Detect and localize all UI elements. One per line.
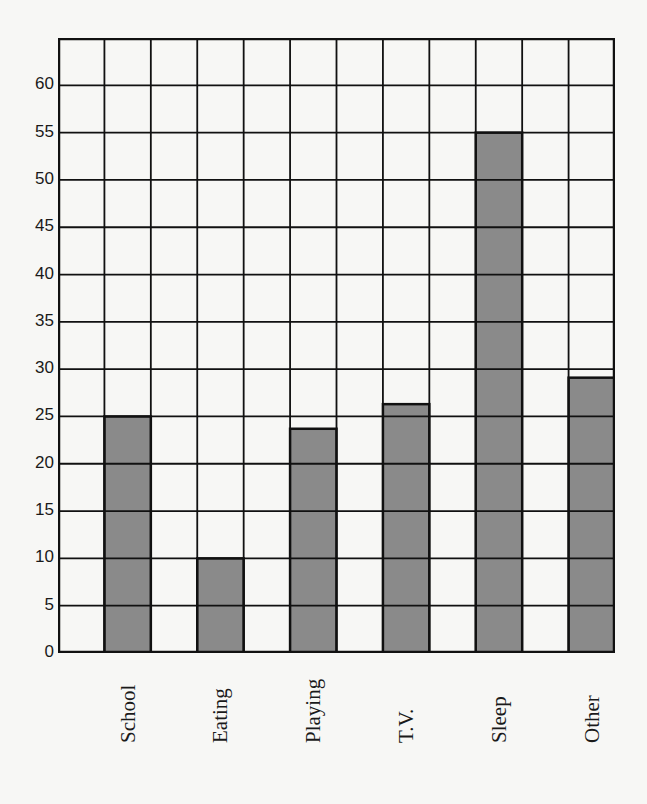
bar-chart-plot-area	[58, 38, 615, 653]
x-category-label: Playing	[301, 679, 326, 743]
y-tick-label: 5	[14, 595, 54, 615]
y-tick-label: 30	[14, 358, 54, 378]
y-tick-label: 40	[14, 264, 54, 284]
y-tick-label: 60	[14, 74, 54, 94]
y-tick-label: 25	[14, 405, 54, 425]
y-tick-label: 10	[14, 547, 54, 567]
x-category-label: School	[116, 685, 141, 743]
x-category-label: Eating	[208, 688, 233, 743]
y-tick-label: 50	[14, 169, 54, 189]
bar-other	[569, 378, 615, 653]
bar-sleep	[476, 133, 522, 653]
bar-school	[104, 416, 150, 653]
x-category-label: T.V.	[394, 709, 419, 743]
bar-playing	[290, 429, 336, 653]
bar-tv	[383, 404, 429, 653]
x-category-label: Other	[580, 695, 605, 743]
y-tick-label: 35	[14, 311, 54, 331]
x-category-label: Sleep	[487, 696, 512, 743]
y-tick-label: 45	[14, 216, 54, 236]
y-tick-label: 20	[14, 453, 54, 473]
y-tick-label: 0	[14, 642, 54, 662]
y-tick-label: 55	[14, 122, 54, 142]
y-tick-label: 15	[14, 500, 54, 520]
